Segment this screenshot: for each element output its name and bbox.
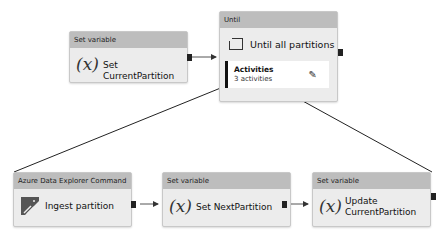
variable-icon: (x) <box>319 196 342 216</box>
node-name-line1: Update <box>345 196 378 207</box>
activities-panel[interactable]: Activities 3 activities ✎ <box>225 61 329 88</box>
node-type-label: Set variable <box>163 173 290 189</box>
variable-icon: (x) <box>76 54 99 74</box>
until-loop-icon-arrow <box>229 41 234 50</box>
set-current-partition-node[interactable]: Set variable (x) Set CurrentPartition <box>69 31 188 83</box>
node-type-label: Until <box>220 12 337 28</box>
node-type-label: Set variable <box>313 173 430 189</box>
set-next-partition-node[interactable]: Set variable (x) Set NextPartition <box>162 172 291 227</box>
update-current-partition-node[interactable]: Set variable (x) Update CurrentPartition <box>312 172 431 227</box>
node-name: Until all partitions <box>250 39 334 50</box>
output-port[interactable] <box>282 201 287 208</box>
activities-bar <box>225 61 228 88</box>
variable-icon: (x) <box>169 196 192 216</box>
node-name-line2: CurrentPartition <box>345 207 416 218</box>
node-name: Set CurrentPartition <box>103 60 187 82</box>
node-name: Set NextPartition <box>196 202 272 213</box>
output-port[interactable] <box>431 193 436 200</box>
azure-data-explorer-icon <box>21 197 39 215</box>
pencil-icon[interactable]: ✎ <box>309 69 317 80</box>
activities-count: 3 activities <box>234 75 272 83</box>
output-port[interactable] <box>187 54 192 61</box>
ingest-partition-node[interactable]: Azure Data Explorer Command Ingest parti… <box>13 172 132 227</box>
output-port[interactable] <box>131 201 136 208</box>
node-type-label: Azure Data Explorer Command <box>14 173 131 189</box>
output-port[interactable] <box>338 49 343 56</box>
until-node[interactable]: Until Until all partitions Activities 3 … <box>219 11 338 102</box>
node-type-label: Set variable <box>70 32 187 48</box>
activities-label: Activities <box>234 65 274 74</box>
node-name: Ingest partition <box>45 201 114 212</box>
